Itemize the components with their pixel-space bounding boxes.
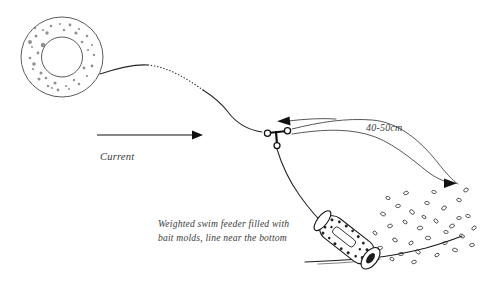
- main-fishing-line: [100, 65, 262, 132]
- swivel-ring-bottom: [274, 143, 280, 149]
- swivel-ring-right: [284, 128, 290, 134]
- three-way-swivel: [264, 128, 290, 149]
- current-label: Current: [100, 151, 135, 162]
- main-line-upper-segment: [100, 65, 148, 74]
- current-arrow: [97, 131, 203, 140]
- feeder-drop-line-path: [277, 149, 326, 226]
- hooklength-lower-curve: [292, 130, 450, 183]
- distance-label: 40-50cm: [366, 122, 402, 133]
- swim-feeder-rig-diagram: Weighted swim feeder rig in current: [0, 0, 485, 286]
- flow-arrow-head-right: [444, 179, 457, 189]
- feeder-drop-line: [277, 149, 326, 226]
- hooklength-lower: [292, 130, 457, 188]
- flow-arrow-left: [277, 117, 336, 126]
- flow-arrow-head-left: [277, 117, 291, 126]
- swivel-ring-left: [264, 130, 270, 136]
- flow-arrow-left-shaft: [288, 119, 336, 121]
- dotted-line-segment: [148, 65, 203, 90]
- spool-inner-hole: [42, 37, 83, 77]
- current-arrow-head: [192, 131, 203, 140]
- caption-line-1: Weighted swim feeder filled with: [158, 218, 289, 229]
- bait-particle-trail: [372, 187, 477, 264]
- diagram-canvas: Weighted swim feeder rig in current: [0, 0, 485, 286]
- line-spool: [21, 17, 103, 97]
- caption-line-2: bait molds, line near the bottom: [158, 232, 287, 243]
- main-line-lower-segment: [203, 90, 262, 132]
